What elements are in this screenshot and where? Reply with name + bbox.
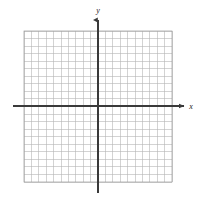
graph-canvas: x y (0, 0, 200, 205)
x-axis-label: x (188, 102, 193, 111)
coordinate-grid-figure: x y (0, 0, 200, 205)
y-axis-label: y (95, 6, 100, 15)
